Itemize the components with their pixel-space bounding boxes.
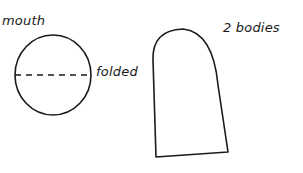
mouth-label: mouth: [2, 13, 45, 28]
bodies-label: 2 bodies: [223, 20, 280, 35]
body-arch-shape: [153, 29, 228, 157]
folded-label: folded: [96, 64, 138, 79]
